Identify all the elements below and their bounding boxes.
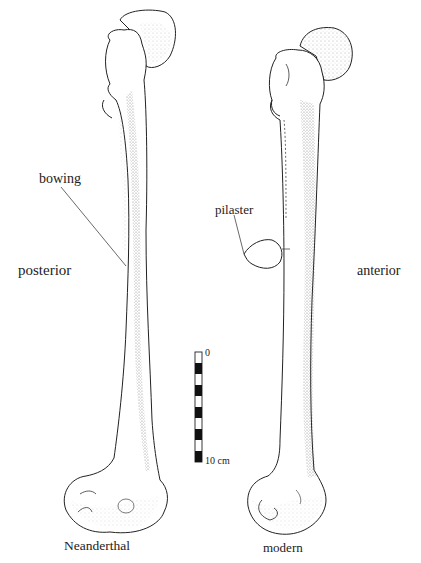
posterior-label: posterior xyxy=(18,262,71,279)
pilaster-cross-section xyxy=(234,215,290,268)
scale-start-label: 0 xyxy=(205,347,210,358)
pilaster-label: pilaster xyxy=(215,202,253,218)
scale-end-label: 10 cm xyxy=(205,455,230,466)
anterior-label: anterior xyxy=(357,263,401,279)
neanderthal-caption: Neanderthal xyxy=(64,538,130,554)
modern-caption: modern xyxy=(263,540,303,556)
modern-femur xyxy=(248,28,353,535)
bowing-leader-line xyxy=(61,187,126,266)
scale-bar xyxy=(195,352,202,462)
pilaster-leader-line xyxy=(234,215,244,254)
neanderthal-femur xyxy=(64,10,175,533)
bowing-label: bowing xyxy=(39,171,81,187)
neanderthal-shaft xyxy=(64,30,167,533)
femur-comparison-illustration xyxy=(0,0,421,563)
